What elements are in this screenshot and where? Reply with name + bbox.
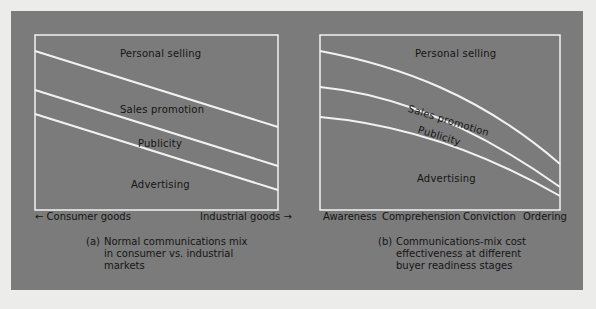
panel-b-caption: (b) Communications-mix cost effectivenes… xyxy=(378,236,558,272)
panel-b-label-personal-selling: Personal selling xyxy=(415,48,496,59)
panel-b-caption-text: Communications-mix cost effectiveness at… xyxy=(396,236,558,272)
panel-a-label-publicity: Publicity xyxy=(138,138,182,149)
panel-a-tag: (a) xyxy=(86,236,100,248)
panel-a-boundary-sales-promotion xyxy=(35,90,278,166)
panel-b-stage-ordering: Ordering xyxy=(523,211,567,222)
panel-a-label-sales-promotion: Sales promotion xyxy=(120,104,204,115)
panel-b-stage-awareness: Awareness xyxy=(323,211,377,222)
panel-b-tag: (b) xyxy=(378,236,392,248)
panel-b-boundary-personal-selling xyxy=(320,51,560,164)
panel-a-axis-right: Industrial goods → xyxy=(200,211,292,222)
panel-a-caption: (a) Normal communications mix in consume… xyxy=(86,236,266,272)
panel-b-stage-conviction: Conviction xyxy=(463,211,516,222)
panel-a-label-personal-selling: Personal selling xyxy=(120,48,201,59)
panel-a-label-advertising: Advertising xyxy=(131,179,190,190)
panel-b-stage-comprehension: Comprehension xyxy=(382,211,461,222)
panel-b-boundary-publicity xyxy=(320,117,560,196)
panel-b-label-advertising: Advertising xyxy=(417,173,476,184)
panel-a-caption-text: Normal communications mix in consumer vs… xyxy=(104,236,266,272)
panel-a-axis-left: ← Consumer goods xyxy=(35,211,131,222)
panel-a-boundary-personal-selling xyxy=(35,51,278,127)
